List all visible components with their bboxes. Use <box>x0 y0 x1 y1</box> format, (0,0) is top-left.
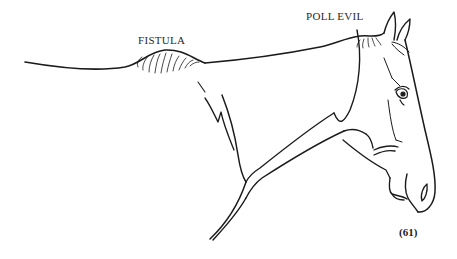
poll-evil-swelling-hatching <box>357 38 381 48</box>
label-poll-evil: POLL EVIL <box>306 10 364 22</box>
nostril <box>421 184 427 201</box>
figure-number: (61) <box>399 226 417 238</box>
jaw-line <box>343 140 398 178</box>
horse-drawing <box>0 0 457 259</box>
eye <box>395 86 409 105</box>
neck-topline <box>25 33 384 69</box>
throat-and-neck-underside <box>246 30 373 198</box>
shoulder-notch <box>205 98 234 150</box>
bridle-lines <box>384 58 402 142</box>
muzzle <box>389 174 418 212</box>
face-profile <box>405 40 435 212</box>
label-fistula: FISTULA <box>138 34 185 46</box>
withers-stroke <box>198 82 205 92</box>
ears <box>384 12 410 40</box>
horse-illustration <box>0 0 457 259</box>
